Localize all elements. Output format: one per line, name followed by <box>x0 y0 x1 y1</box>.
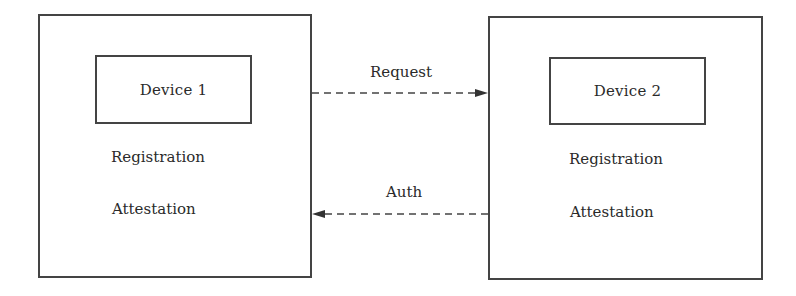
auth-arrow <box>312 210 488 218</box>
request-arrow <box>312 89 488 97</box>
request-edge-label: Request <box>370 63 432 81</box>
auth-edge-label: Auth <box>386 183 422 201</box>
edge-layer <box>0 0 796 296</box>
